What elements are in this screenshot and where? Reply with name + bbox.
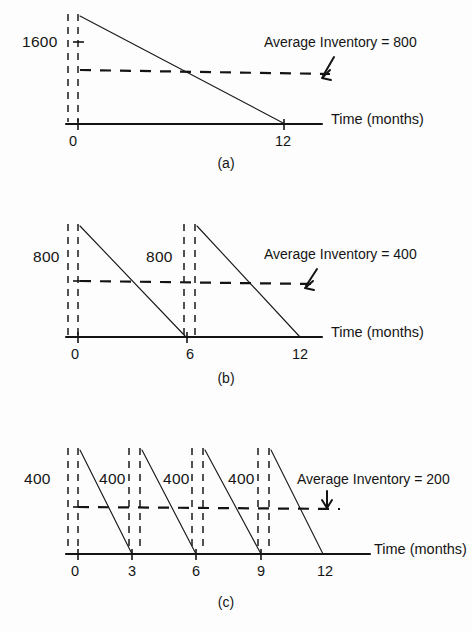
panel-c-sawtooth-cycle-1 <box>80 450 132 554</box>
panel-c-annotation-arrow-icon <box>322 491 332 508</box>
panel-c-sawtooth-cycle-4 <box>271 450 323 554</box>
panel-c-average-inventory-label: Average Inventory = 200 <box>297 471 450 487</box>
panel-a-average-inventory-label: Average Inventory = 800 <box>264 34 417 50</box>
panel-a-order-quantity-label: 1600 <box>22 33 58 50</box>
panel-b-tick-label-0: 0 <box>71 346 79 362</box>
panel-a-tick-label-0: 0 <box>69 133 77 149</box>
panel-c-tick-label-6: 6 <box>192 563 200 579</box>
panel-b-caption: (b) <box>217 370 234 386</box>
panel-b-time-axis-title: Time (months) <box>331 324 424 340</box>
panel-a-average-inventory-line <box>80 70 330 74</box>
panel-a-tick-label-12: 12 <box>275 133 291 149</box>
panel-b-order-quantity-label-2: 800 <box>146 248 173 265</box>
inventory-sawtooth-figure: 1600 0 12 Time (months) Average Inventor… <box>0 0 472 631</box>
panel-c-order-quantity-label-1: 400 <box>24 470 51 487</box>
panel-c-tick-label-12: 12 <box>317 563 333 579</box>
panel-b-sawtooth-cycle-2 <box>197 226 300 337</box>
panel-c-order-quantity-label-3: 400 <box>163 470 190 487</box>
panel-c-time-axis-title: Time (months) <box>374 541 467 557</box>
panel-c-order-quantity-label-2: 400 <box>99 470 126 487</box>
panel-a-annotation-arrow-icon <box>322 57 334 80</box>
panel-a-caption: (a) <box>217 155 234 171</box>
panel-c-sawtooth-cycle-3 <box>205 450 261 554</box>
panel-b-average-inventory-label: Average Inventory = 400 <box>264 246 417 262</box>
panel-c: 400 400 400 400 0 3 6 9 12 Time (months)… <box>24 448 467 610</box>
panel-b: 800 800 0 6 12 Time (months) Average Inv… <box>33 224 424 386</box>
panel-a-time-axis-title: Time (months) <box>331 111 424 127</box>
panel-b-tick-label-12: 12 <box>292 346 308 362</box>
panel-c-tick-label-3: 3 <box>128 563 136 579</box>
panel-b-order-quantity-label-1: 800 <box>33 248 60 265</box>
panel-c-order-quantity-label-4: 400 <box>228 470 255 487</box>
panel-b-average-inventory-line <box>80 281 316 284</box>
panel-a: 1600 0 12 Time (months) Average Inventor… <box>22 14 424 171</box>
panel-c-average-inventory-line <box>78 507 340 509</box>
panel-b-tick-label-6: 6 <box>186 346 194 362</box>
panel-c-tick-label-0: 0 <box>71 563 79 579</box>
panel-b-annotation-arrow-icon <box>305 269 317 290</box>
panel-c-caption: (c) <box>218 594 234 610</box>
panel-c-sawtooth-cycle-2 <box>142 450 196 554</box>
panel-c-tick-label-9: 9 <box>257 563 265 579</box>
